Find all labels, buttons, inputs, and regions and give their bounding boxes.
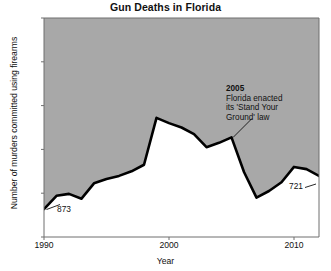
annotation-stand-your-ground-text: Florida enacted its 'Stand Your Ground' … bbox=[226, 94, 311, 123]
annotation-stand-your-ground: 2005 Florida enacted its 'Stand Your Gro… bbox=[226, 84, 311, 122]
x-axis-tick-label: 2010 bbox=[284, 240, 303, 250]
x-axis-tick-labels: 199020002010 bbox=[0, 240, 331, 254]
x-axis-tick-label: 2000 bbox=[159, 240, 178, 250]
series-plot bbox=[44, 18, 319, 237]
x-axis-tick-label: 1990 bbox=[34, 240, 53, 250]
x-axis-title: Year bbox=[0, 256, 331, 266]
data-label-721: 721 bbox=[289, 181, 303, 191]
y-axis-tick-labels: 02004006008001,000 bbox=[0, 0, 40, 271]
chart-title: Gun Deaths in Florida bbox=[0, 1, 331, 13]
annotation-year-2005: 2005 bbox=[226, 84, 311, 94]
chart-figure: Gun Deaths in Florida Number of murders … bbox=[0, 0, 331, 271]
data-label-873: 873 bbox=[57, 204, 71, 214]
plot-area bbox=[44, 18, 319, 237]
